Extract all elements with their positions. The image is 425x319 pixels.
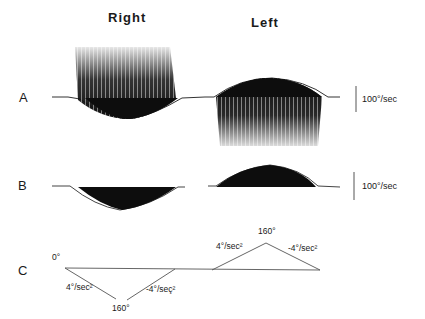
panel-label-c: C — [18, 264, 27, 277]
stimulus-profile — [65, 243, 320, 300]
trace-a-left — [205, 78, 340, 146]
traces-svg — [0, 0, 425, 319]
trace-b — [52, 165, 340, 210]
left-decel-label: -4°/sec² — [288, 244, 317, 253]
scale-label-b: 100°/sec — [362, 182, 397, 191]
column-title-right: Right — [108, 11, 146, 24]
left-peak-label: 160° — [258, 227, 276, 236]
start-angle-label: 0° — [52, 253, 60, 262]
right-peak-label: 160° — [112, 304, 130, 313]
panel-label-a: A — [19, 91, 28, 104]
column-title-left: Left — [251, 16, 279, 29]
trace-a-right — [52, 47, 205, 119]
left-accel-label: 4°/sec² — [216, 242, 243, 251]
scale-label-a: 100°/sec — [362, 95, 397, 104]
right-accel-label: 4°/sec² — [66, 283, 93, 292]
right-decel-label: -4°/seç² — [146, 285, 175, 294]
figure: Right Left A B C 100°/sec 100°/sec 0° 4°… — [0, 0, 425, 319]
panel-label-b: B — [18, 179, 27, 192]
